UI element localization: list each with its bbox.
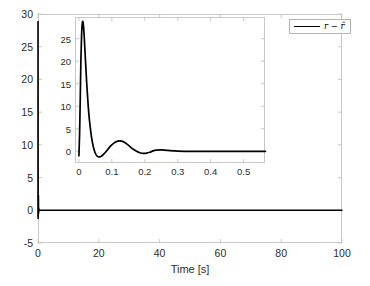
y-tick-label: 0 [27,204,33,216]
x-tick-label: 40 [154,247,166,259]
x-tick-label: 0.3 [171,166,184,177]
x-tick-label: 0.5 [237,166,250,177]
inset-series-line [79,21,265,157]
x-tick-label: 80 [275,247,287,259]
x-tick-label: 20 [93,247,105,259]
inset-plot-canvas [75,17,265,163]
y-tick-label: 10 [60,101,71,112]
y-tick-label: 25 [60,33,71,44]
legend: r − r̂ [289,19,351,34]
inset-axes: 0510152025 00.10.20.30.40.5 [75,17,265,163]
chart-figure: -5051015202530 020406080100 Time [s] 051… [0,0,370,286]
y-tick-label: 5 [27,172,33,184]
x-tick-label: 0.4 [204,166,217,177]
x-axis-label: Time [s] [171,263,210,275]
y-tick-label: 15 [60,78,71,89]
y-tick-label: 5 [66,123,71,134]
y-tick-label: 10 [21,139,33,151]
x-tick-label: 100 [333,247,351,259]
y-tick-label: 20 [21,73,33,85]
y-tick-label: 25 [21,41,33,53]
y-tick-label: 30 [21,8,33,20]
y-tick-label: -5 [24,237,33,249]
legend-line-sample-icon [294,26,320,27]
legend-item-label: r − r̂ [324,22,345,31]
y-tick-label: 15 [21,106,33,118]
x-tick-label: 0 [76,166,81,177]
y-tick-label: 0 [66,146,71,157]
x-tick-label: 60 [215,247,227,259]
x-tick-label: 0.1 [105,166,118,177]
x-tick-label: 0 [35,247,41,259]
x-tick-label: 0.2 [138,166,151,177]
y-tick-label: 20 [60,56,71,67]
